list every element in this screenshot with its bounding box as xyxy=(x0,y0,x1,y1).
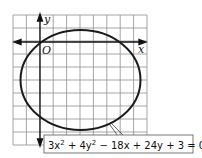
y-axis-label: y xyxy=(43,13,51,26)
ellipse-diagram: y x O 3x2 + 4y2 − 18x + 24y + 3 = 0 xyxy=(0,0,202,158)
x-axis-arrow-left xyxy=(14,40,21,45)
origin-label: O xyxy=(42,44,51,57)
grid xyxy=(13,15,147,145)
x-axis-label: x xyxy=(138,43,145,56)
equation-label: 3x2 + 4y2 − 18x + 24y + 3 = 0 xyxy=(48,139,202,151)
